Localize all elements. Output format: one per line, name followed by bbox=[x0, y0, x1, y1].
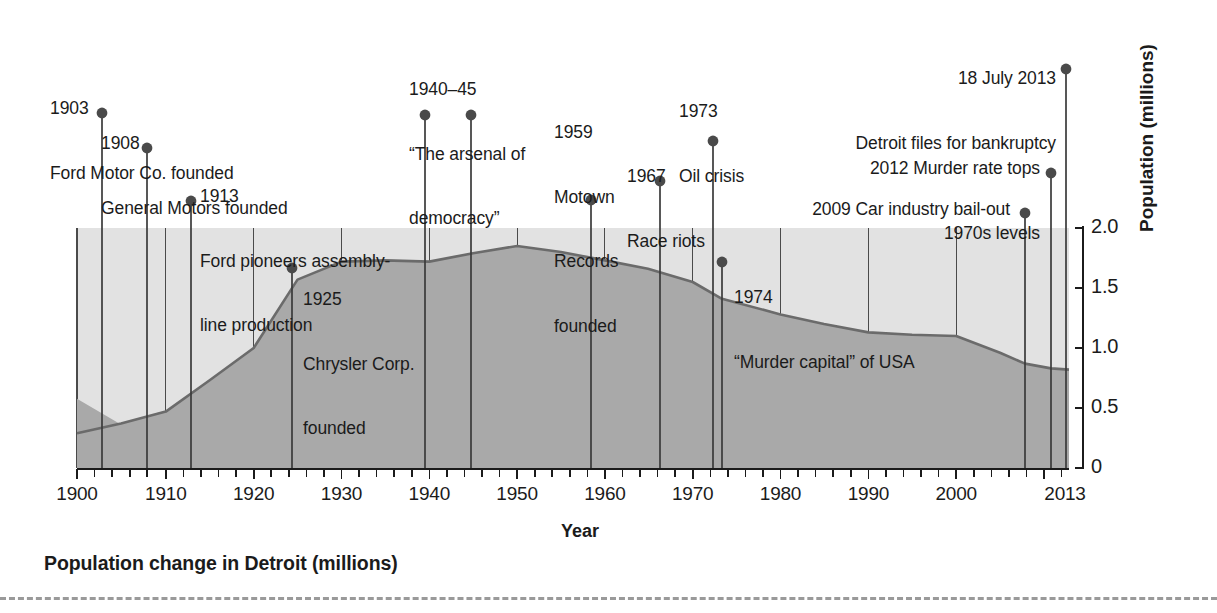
y-tick-1-5: 1.5 bbox=[1091, 275, 1118, 298]
annotation-1974-year: 1974 bbox=[734, 287, 915, 309]
x-axis-minor-ticks bbox=[77, 469, 1062, 479]
dot-2013 bbox=[1061, 64, 1072, 75]
annotation-1925-text-2: founded bbox=[303, 418, 414, 440]
y-tick-1-0: 1.0 bbox=[1091, 335, 1118, 358]
y-tick-0-5: 0.5 bbox=[1091, 395, 1118, 418]
x-tick-1990: 1990 bbox=[828, 483, 908, 505]
annotation-1974-text: “Murder capital” of USA bbox=[734, 352, 915, 374]
x-tick-1970: 1970 bbox=[653, 483, 733, 505]
x-tick-1920: 1920 bbox=[214, 483, 294, 505]
y-tick-2-0: 2.0 bbox=[1091, 215, 1118, 238]
y-tick-0: 0 bbox=[1091, 455, 1102, 478]
annotation-1959-year: 1959 bbox=[554, 122, 618, 144]
annotation-1959-text-3: founded bbox=[554, 316, 618, 338]
annotation-1940-45-text-2: democracy” bbox=[409, 208, 525, 230]
x-tick-1900: 1900 bbox=[37, 483, 117, 505]
annotation-1973-text: Oil crisis bbox=[679, 166, 744, 188]
annotation-2013: 18 July 2013 Detroit files for bankruptc… bbox=[760, 25, 1056, 197]
x-tick-1950: 1950 bbox=[477, 483, 557, 505]
figure-caption: Population change in Detroit (millions) bbox=[44, 552, 398, 575]
annotation-1959-text-2: Records bbox=[554, 251, 618, 273]
annotation-1940-45-text-1: “The arsenal of bbox=[409, 144, 525, 166]
annotation-1925-year: 1925 bbox=[303, 289, 414, 311]
annotation-1959: 1959 Motown Records founded bbox=[554, 79, 618, 380]
dot-1974 bbox=[717, 257, 728, 268]
x-tick-1930: 1930 bbox=[302, 483, 382, 505]
annotation-1925-text-1: Chrysler Corp. bbox=[303, 354, 414, 376]
x-tick-2000: 2000 bbox=[916, 483, 996, 505]
y-axis bbox=[1075, 226, 1083, 469]
annotation-2012-text-2: 1970s levels bbox=[760, 223, 1040, 245]
annotation-2013-text: Detroit files for bankruptcy bbox=[760, 133, 1056, 155]
x-tick-1910: 1910 bbox=[126, 483, 206, 505]
annotation-1967-text: Race riots bbox=[627, 231, 705, 253]
x-axis-title: Year bbox=[561, 521, 599, 542]
annotation-1973: 1973 Oil crisis bbox=[679, 58, 744, 230]
y-axis-ticks bbox=[1075, 228, 1083, 468]
annotation-1913-year: 1913 bbox=[200, 186, 390, 208]
bottom-dashed-divider bbox=[0, 597, 1217, 600]
x-tick-1960: 1960 bbox=[565, 483, 645, 505]
x-tick-1940: 1940 bbox=[389, 483, 469, 505]
annotation-1940-45: 1940–45 “The arsenal of democracy” bbox=[409, 36, 525, 273]
detroit-population-figure: 1903 Ford Motor Co. founded 1908 General… bbox=[0, 0, 1217, 613]
x-tick-1980: 1980 bbox=[741, 483, 821, 505]
annotation-1973-year: 1973 bbox=[679, 101, 744, 123]
annotation-1925: 1925 Chrysler Corp. founded bbox=[303, 246, 414, 483]
x-tick-2013: 2013 bbox=[1025, 483, 1105, 505]
annotation-1940-45-year: 1940–45 bbox=[409, 79, 525, 101]
annotation-2013-date: 18 July 2013 bbox=[760, 68, 1056, 90]
y-axis-title: Population (millions) bbox=[1136, 0, 1158, 232]
annotation-1959-text-1: Motown bbox=[554, 187, 618, 209]
x-axis bbox=[77, 469, 1069, 479]
